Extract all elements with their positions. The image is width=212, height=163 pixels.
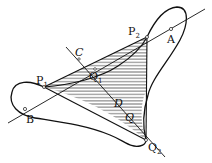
diagram-canvas: P2 A P1 B C Q1 D Q Q2 xyxy=(0,0,212,163)
label-A: A xyxy=(166,33,176,46)
label-Q: Q xyxy=(125,111,134,124)
label-D: D xyxy=(113,97,123,110)
point-P2 xyxy=(146,36,149,39)
loop-A xyxy=(144,7,187,140)
label-C: C xyxy=(75,46,84,59)
point-A xyxy=(169,27,172,30)
label-Q2: Q2 xyxy=(148,141,162,156)
point-B xyxy=(23,107,26,110)
label-B: B xyxy=(26,113,34,126)
hatched-region xyxy=(44,37,147,140)
label-P2: P2 xyxy=(128,25,140,40)
label-P1: P1 xyxy=(36,74,48,89)
